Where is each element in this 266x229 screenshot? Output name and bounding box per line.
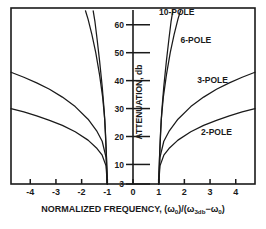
y-tick-label: 3 bbox=[119, 179, 124, 189]
y-tick-label: 30 bbox=[115, 104, 125, 114]
x-tick-label: -2 bbox=[78, 187, 86, 197]
y-tick-label: 10 bbox=[115, 160, 125, 170]
x-tick-label: 4 bbox=[233, 187, 238, 197]
x-tick-label: -4 bbox=[26, 187, 34, 197]
x-tick-label: 2 bbox=[182, 187, 187, 197]
y-tick-label: 50 bbox=[115, 48, 125, 58]
curve-label-3-pole: 3-POLE bbox=[197, 75, 228, 85]
y-tick-label: 40 bbox=[115, 76, 125, 86]
curve-label-6-pole: 6-POLE bbox=[181, 35, 212, 45]
y-axis-title: ATTENUATION, db bbox=[134, 65, 144, 140]
x-tick-label: 3 bbox=[208, 187, 213, 197]
attenuation-chart-figure: 3102030405060 -4-3-2-101234 10-POLE6-POL… bbox=[0, 0, 266, 229]
x-tick-label: -1 bbox=[103, 187, 111, 197]
chart-canvas: 3102030405060 -4-3-2-101234 10-POLE6-POL… bbox=[0, 0, 266, 229]
x-tick-label: 0 bbox=[130, 187, 135, 197]
curve-label-2-pole: 2-POLE bbox=[201, 127, 232, 137]
curve-label-10-pole: 10-POLE bbox=[159, 7, 195, 17]
y-tick-label: 60 bbox=[115, 20, 125, 30]
x-tick-label: 1 bbox=[156, 187, 161, 197]
y-tick-label: 20 bbox=[115, 132, 125, 142]
x-tick-label: -3 bbox=[52, 187, 60, 197]
y-axis-title-text: ATTENUATION, db bbox=[134, 65, 144, 140]
